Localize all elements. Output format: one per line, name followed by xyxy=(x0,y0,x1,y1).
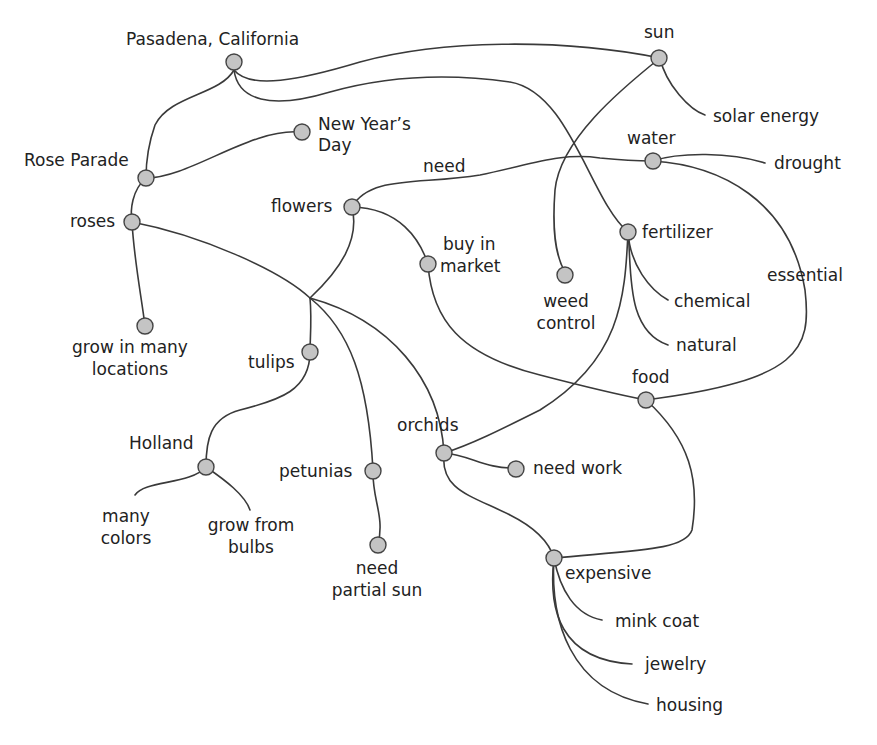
edge-roseparade-newyears xyxy=(146,132,300,178)
label-need: need xyxy=(423,156,465,177)
edge-flowers-water xyxy=(352,156,652,207)
node-holland[interactable] xyxy=(198,459,214,475)
label-many-colors-2: colors xyxy=(101,528,152,549)
node-orchids[interactable] xyxy=(436,445,452,461)
edge-roses-grow xyxy=(132,222,145,326)
label-grow-many-1: grow in many xyxy=(72,337,188,358)
label-partial-2: partial sun xyxy=(332,580,423,601)
label-buy-in-2: market xyxy=(440,256,500,277)
label-solar-energy: solar energy xyxy=(713,106,819,127)
node-roses[interactable] xyxy=(124,214,140,230)
node-buy-in-market[interactable] xyxy=(420,256,436,272)
node-pasadena[interactable] xyxy=(226,54,242,70)
label-pasadena: Pasadena, California xyxy=(126,29,299,50)
edge-petunias-partial xyxy=(373,470,380,545)
node-need-work[interactable] xyxy=(508,461,524,477)
label-sun: sun xyxy=(644,22,674,43)
edge-water-drought xyxy=(652,154,765,163)
label-weed-1: weed xyxy=(543,291,589,312)
node-water[interactable] xyxy=(645,153,661,169)
edge-orchids-needwork xyxy=(444,453,516,468)
node-rose-parade[interactable] xyxy=(138,170,154,186)
label-chemical: chemical xyxy=(674,291,750,312)
concept-map: Pasadena, California sun solar energy Ne… xyxy=(0,0,877,745)
label-tulips: tulips xyxy=(248,352,295,373)
node-grow-in-many-locations[interactable] xyxy=(137,318,153,334)
label-many-colors-1: many xyxy=(102,506,150,527)
label-water: water xyxy=(627,128,675,149)
label-natural: natural xyxy=(676,335,737,356)
label-need-work: need work xyxy=(533,458,622,479)
label-partial-1: need xyxy=(356,558,398,579)
label-housing: housing xyxy=(656,695,723,716)
node-tulips[interactable] xyxy=(302,344,318,360)
label-new-years-1: New Year’s xyxy=(318,114,411,135)
edge-sun-solar xyxy=(660,58,705,115)
node-flowers[interactable] xyxy=(344,199,360,215)
label-mink-coat: mink coat xyxy=(615,611,699,632)
node-new-years-day[interactable] xyxy=(294,124,310,140)
edge-roses-hub xyxy=(132,222,310,298)
label-grow-many-2: locations xyxy=(92,359,168,380)
label-new-years-2: Day xyxy=(318,135,352,156)
label-orchids: orchids xyxy=(397,415,459,436)
node-sun[interactable] xyxy=(651,50,667,66)
edge-pasadena-roseparade xyxy=(146,70,234,178)
edge-holland-bulbs xyxy=(206,467,250,510)
label-fertilizer: fertilizer xyxy=(642,222,713,243)
node-expensive[interactable] xyxy=(546,550,562,566)
label-jewelry: jewelry xyxy=(645,654,706,675)
label-rose-parade: Rose Parade xyxy=(24,150,129,171)
label-bulbs-1: grow from xyxy=(208,515,295,536)
node-weed-control[interactable] xyxy=(557,267,573,283)
node-fertilizer[interactable] xyxy=(620,224,636,240)
edge-flowers-hub xyxy=(310,207,354,298)
label-petunias: petunias xyxy=(279,461,352,482)
label-essential: essential xyxy=(767,265,843,286)
edge-holland-colors xyxy=(135,467,206,495)
label-roses: roses xyxy=(70,211,115,232)
node-food[interactable] xyxy=(638,392,654,408)
label-holland: Holland xyxy=(129,433,194,454)
label-food: food xyxy=(632,367,670,388)
edge-flowers-buy xyxy=(352,207,428,264)
label-bulbs-2: bulbs xyxy=(228,537,274,558)
node-petunias[interactable] xyxy=(365,463,381,479)
node-need-partial-sun[interactable] xyxy=(370,537,386,553)
label-expensive: expensive xyxy=(565,563,651,584)
label-flowers: flowers xyxy=(271,196,332,217)
label-buy-in-1: buy in xyxy=(443,234,496,255)
edge-food-expensive xyxy=(554,400,695,558)
edge-fertilizer-natural xyxy=(628,232,668,345)
label-drought: drought xyxy=(774,153,841,174)
edges xyxy=(131,44,806,704)
label-weed-2: control xyxy=(537,313,596,334)
edge-hub-petunias xyxy=(310,298,373,470)
